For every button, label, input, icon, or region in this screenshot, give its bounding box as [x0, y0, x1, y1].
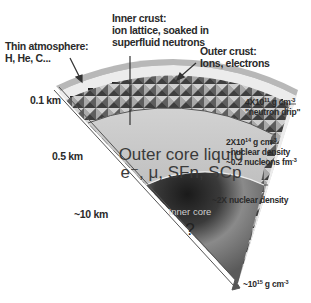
density-2x-nuclear: ~2X nuclear density [212, 196, 288, 206]
outer-crust-title: Outer crust: [200, 45, 270, 57]
depth-label-10km: ~10 km [74, 208, 108, 220]
density-exponent: 14 [245, 137, 251, 143]
density-unit: g cm [270, 97, 291, 107]
density-value: 4X10 [245, 97, 264, 107]
inner-crust-desc-1: ion lattice, soaked in [112, 24, 209, 36]
inner-crust-label: Inner crust: ion lattice, soaked in supe… [112, 12, 209, 48]
density-neutron-drip: 4X1011 g cm-3 "neutron drip" [245, 98, 300, 118]
density-unit: g cm [251, 137, 272, 147]
density-value: ~10 [243, 279, 257, 289]
unit-exponent: -3 [292, 157, 297, 163]
atmosphere-title: Thin atmosphere: [5, 40, 88, 52]
inner-crust-title: Inner crust: [112, 12, 209, 24]
depth-label-0-5km: 0.5 km [52, 150, 83, 162]
unit-exponent: -3 [272, 137, 277, 143]
nucleon-density-note: ~0.2 nucleons fm [226, 157, 292, 167]
outer-crust-desc: Ions, electrons [200, 57, 270, 69]
neutron-drip-note: "neutron drip" [245, 108, 300, 118]
density-value: 2X10 [226, 137, 245, 147]
density-exponent: 15 [257, 279, 263, 285]
unit-exponent: -3 [284, 279, 289, 285]
outer-crust-label: Outer crust: Ions, electrons [200, 45, 270, 69]
density-unit: g cm [263, 279, 284, 289]
inner-core-label: Inner core [150, 206, 230, 217]
depth-label-0-1km: 0.1 km [30, 94, 61, 106]
atmosphere-label: Thin atmosphere: H, He, C... [5, 40, 88, 64]
inner-core-unknown-mark: ? [150, 220, 230, 240]
atmosphere-composition: H, He, C... [5, 52, 88, 64]
density-nuclear: 2X1014 g cm-3 ~nuclear density ~0.2 nucl… [226, 138, 297, 167]
density-exponent: 11 [264, 97, 269, 103]
neutron-star-diagram: Thin atmosphere: H, He, C... Inner crust… [0, 0, 311, 303]
density-center: ~1015 g cm-3 [243, 280, 288, 290]
inner-crust-desc-2: superfluid neutrons [112, 36, 209, 48]
unit-exponent: -3 [291, 97, 296, 103]
